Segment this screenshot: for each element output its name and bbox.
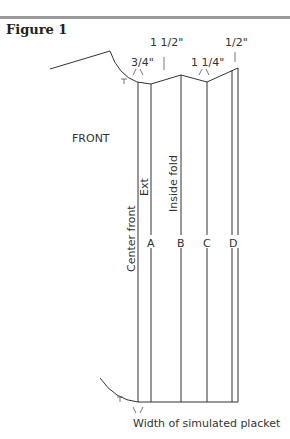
placket-width-ticks [133,407,143,413]
label-a: A [147,237,155,250]
shoulder-line [50,51,110,69]
label-d: D [229,237,237,250]
inside-fold-label: Inside fold [167,155,180,212]
measure-1-2: 1/2" [225,36,248,49]
top-edge-zigzag [137,68,238,84]
placket-width-label: Width of simulated placket [133,417,281,430]
measure-1-1-2: 1 1/2" [150,36,183,49]
measure-ticks-3-4 [133,69,143,75]
measure-3-4: 3/4" [131,56,154,69]
neck-notch-mark [121,79,127,84]
ext-label: Ext [138,178,151,196]
hem-curve [100,378,238,402]
measure-ticks-1-1-4 [199,69,209,75]
front-label: FRONT [72,132,110,145]
measure-1-1-4: 1 1/4" [191,56,224,69]
center-front-label: Center front [125,205,138,272]
label-b: B [177,237,185,250]
placket-diagram: 3/4" 1 1/2" 1 1/4" 1/2" FRONT Center fro… [0,0,290,439]
label-c: C [203,237,211,250]
